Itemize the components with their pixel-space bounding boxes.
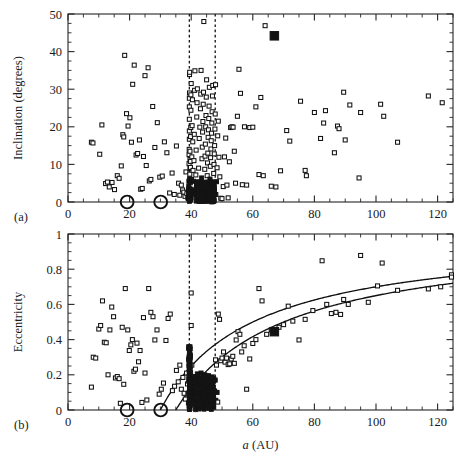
data-point	[168, 191, 172, 195]
y-axis-title-eccentricity: Eccentricity	[11, 291, 25, 352]
data-point-dense	[197, 387, 201, 391]
data-point	[199, 68, 203, 72]
kbo-scatter-figure: 02040608010012001020304050 0204060801001…	[0, 0, 471, 470]
data-point-dense	[203, 393, 207, 397]
data-point	[214, 83, 218, 87]
data-point	[304, 174, 308, 178]
data-point	[181, 375, 185, 379]
data-point-dense	[188, 402, 192, 406]
data-point	[210, 94, 214, 98]
data-point	[329, 312, 333, 316]
data-point	[173, 384, 177, 388]
data-point	[130, 338, 134, 342]
data-point	[209, 139, 213, 143]
x-tick-label: 120	[428, 207, 447, 221]
data-point	[379, 102, 383, 106]
data-point	[138, 349, 142, 353]
data-point	[212, 171, 216, 175]
data-point	[189, 93, 193, 97]
data-point	[105, 180, 109, 184]
y-tick-label: 0	[56, 196, 62, 210]
panel-label-b: (b)	[14, 418, 29, 432]
data-point	[113, 188, 117, 192]
data-point	[357, 176, 361, 180]
data-point	[342, 90, 346, 94]
data-point	[141, 155, 145, 159]
data-point-dense	[196, 399, 200, 403]
data-point	[133, 367, 137, 371]
data-point-dense	[205, 401, 209, 405]
x-tick-label: 100	[367, 207, 386, 221]
data-point-dense	[188, 345, 192, 349]
data-point	[151, 315, 155, 319]
data-point-dense	[187, 191, 191, 195]
x-tick-label: 100	[367, 415, 386, 429]
data-point	[254, 105, 258, 109]
data-point	[218, 175, 222, 179]
data-point	[260, 299, 264, 303]
data-point-dense	[198, 404, 202, 408]
data-point	[200, 176, 204, 180]
data-point	[220, 356, 224, 360]
data-point	[189, 291, 193, 295]
data-point	[303, 317, 307, 321]
data-point	[146, 66, 150, 70]
data-point	[261, 174, 265, 178]
data-point-dense	[209, 398, 213, 402]
data-point	[182, 391, 186, 395]
data-point	[231, 354, 235, 358]
data-point	[143, 74, 147, 78]
data-point-dense	[208, 190, 212, 194]
data-point	[192, 159, 196, 163]
data-point-dense	[188, 365, 192, 369]
data-point	[110, 305, 114, 309]
data-point	[216, 134, 220, 138]
data-point	[118, 401, 122, 405]
data-point-dense	[188, 354, 192, 358]
data-point	[286, 304, 290, 308]
x-tick-label: 20	[123, 415, 136, 429]
data-point	[189, 108, 193, 112]
data-point	[323, 109, 327, 113]
data-point	[440, 101, 444, 105]
data-point	[194, 148, 198, 152]
data-point	[117, 377, 121, 381]
data-point	[189, 82, 193, 86]
y-tick-label: 0.2	[46, 368, 62, 382]
data-point	[127, 349, 131, 353]
y-tick-label: 30	[50, 83, 63, 97]
y-tick-label: 10	[50, 158, 63, 172]
x-tick-label: 80	[308, 207, 321, 221]
data-point	[203, 167, 207, 171]
data-point	[439, 285, 443, 289]
data-point	[210, 121, 214, 125]
data-point	[131, 82, 135, 86]
y-axis-title-inclination: Inclination (degrees)	[11, 56, 25, 160]
data-point	[213, 144, 217, 148]
data-point	[178, 193, 182, 197]
data-point	[234, 338, 238, 342]
data-point	[205, 78, 209, 82]
data-point	[107, 185, 111, 189]
data-point-dense	[202, 390, 206, 394]
data-point	[190, 124, 194, 128]
data-point	[299, 99, 303, 103]
data-point	[188, 70, 192, 74]
data-point	[220, 197, 224, 201]
data-point	[251, 125, 255, 129]
x-tick-label: 60	[247, 207, 260, 221]
data-point	[166, 316, 170, 320]
data-point	[89, 385, 93, 389]
data-point-dense	[204, 183, 208, 187]
data-point	[343, 138, 347, 142]
x-axis-title: a (AU)	[243, 438, 279, 452]
data-point	[193, 69, 197, 73]
data-point	[334, 310, 338, 314]
data-point-dense	[188, 395, 192, 399]
x-tick-label: 0	[65, 415, 71, 429]
data-point	[206, 151, 210, 155]
data-point	[248, 357, 252, 361]
x-axis-title-unit: (AU)	[249, 438, 279, 452]
data-point	[112, 315, 116, 319]
x-tick-label: 40	[185, 415, 198, 429]
